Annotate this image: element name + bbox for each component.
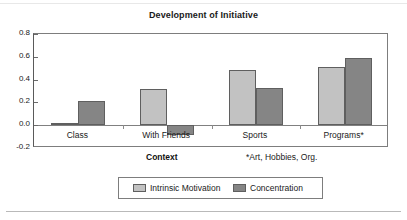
y-axis-tick — [34, 80, 38, 81]
x-axis-category-label: Programs* — [299, 130, 388, 140]
bar-intrinsic-motivation-class — [51, 123, 78, 125]
plot-area — [34, 34, 387, 146]
y-axis-tick-label: 0.4 — [2, 75, 30, 83]
footnote-annotation: *Art, Hobbies, Org. — [246, 152, 317, 162]
x-axis-tick — [123, 125, 124, 129]
x-axis-tick — [300, 125, 301, 129]
y-axis-tick — [34, 125, 38, 126]
chart-legend: Intrinsic Motivation Concentration — [118, 177, 323, 199]
y-axis-tick — [34, 57, 38, 58]
chart-figure: Development of Initiative 0.80.60.40.20.… — [0, 0, 407, 220]
chart-title: Development of Initiative — [0, 10, 407, 20]
bar-intrinsic-motivation-sports — [229, 70, 256, 125]
x-axis-category-label: Class — [33, 130, 122, 140]
legend-entry-concentration: Concentration — [233, 183, 303, 193]
zero-baseline — [34, 125, 387, 126]
bottom-divider — [6, 211, 401, 212]
x-axis-title: Context — [146, 152, 178, 162]
bar-concentration-sports — [256, 88, 283, 126]
legend-swatch-icon-concentration — [233, 184, 246, 192]
legend-label-concentration: Concentration — [250, 183, 303, 193]
x-axis-tick — [212, 125, 213, 129]
bar-intrinsic-motivation-programs- — [318, 67, 345, 125]
x-axis-category-label: Sports — [211, 130, 300, 140]
legend-swatch-icon-intrinsic-motivation — [133, 184, 146, 192]
bar-concentration-class — [78, 101, 105, 125]
y-axis-tick — [34, 102, 38, 103]
top-divider — [0, 3, 407, 4]
y-axis-tick-label: -0.2 — [2, 143, 30, 151]
x-axis-category-label: With Friends — [122, 130, 211, 140]
y-axis-tick-label: 0.2 — [2, 97, 30, 105]
y-axis-tick-label: 0.6 — [2, 52, 30, 60]
legend-entry-intrinsic-motivation: Intrinsic Motivation — [133, 183, 220, 193]
bar-concentration-programs- — [345, 58, 372, 125]
y-axis-tick — [34, 34, 38, 35]
bar-intrinsic-motivation-with-friends — [140, 89, 167, 125]
legend-label-intrinsic-motivation: Intrinsic Motivation — [150, 183, 220, 193]
y-axis-tick-label: 0.0 — [2, 120, 30, 128]
y-axis-labels: 0.80.60.40.20.0-0.2 — [0, 0, 30, 220]
y-axis-tick-label: 0.8 — [2, 29, 30, 37]
